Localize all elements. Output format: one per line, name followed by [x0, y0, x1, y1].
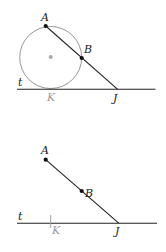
point-A	[44, 24, 48, 28]
label-K: K	[51, 224, 61, 237]
bottom-figure: A B t K J	[17, 144, 157, 238]
label-B: B	[84, 187, 93, 200]
label-A: A	[40, 144, 49, 157]
point-B	[80, 189, 84, 193]
point-A	[44, 158, 48, 162]
geometry-diagram: A B t K J A B t K J	[0, 0, 166, 252]
top-figure: A B t K J	[17, 11, 156, 105]
circle-center-dot	[49, 55, 53, 59]
label-A: A	[40, 11, 49, 24]
label-J: J	[113, 225, 120, 238]
label-K: K	[46, 91, 56, 104]
label-J: J	[111, 92, 118, 105]
label-t: t	[18, 210, 23, 223]
label-t: t	[18, 76, 23, 89]
label-B: B	[83, 43, 92, 56]
point-B	[80, 56, 84, 60]
